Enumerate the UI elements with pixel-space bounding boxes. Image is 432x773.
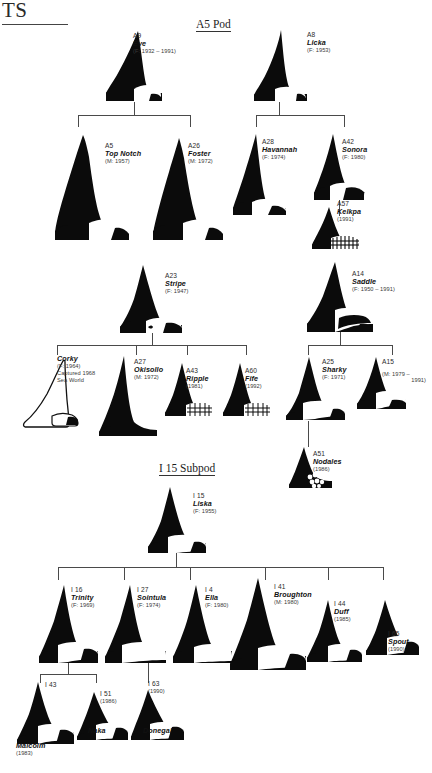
whale-name: Spout: [388, 638, 409, 646]
whale-years: (1986): [100, 698, 117, 705]
label-a28-havannah: A28 Havannah (F: 1974): [262, 138, 297, 161]
label-a26-foster: A26 Foster (M: 1972): [188, 142, 213, 165]
label-i4-ella: I 4 Ella (F: 1980): [205, 586, 229, 609]
connector-a14-bar: [308, 345, 393, 346]
whale-years: (M: 1957): [105, 158, 141, 165]
whale-name: Liska: [193, 500, 217, 508]
whale-id: A15: [382, 358, 426, 366]
whale-years: (F: 1964): [57, 363, 95, 370]
label-i15-liska: I 15 Liska (F: 1955): [193, 492, 217, 515]
whale-years: (1986): [313, 466, 342, 473]
label-a9-eve: A9 Eve (F: 1932 – 1991): [133, 32, 176, 55]
label-i51-naka: Naka: [88, 727, 106, 735]
connector-a23-stem: [152, 333, 153, 345]
label-a8-licka: A8 Licka (F: 1953): [307, 31, 331, 54]
whale-years: (F: 1947): [165, 288, 189, 295]
whale-name: Donegal: [143, 727, 172, 735]
connector-a25-a51: [308, 421, 309, 447]
whale-years: (F: 1980): [205, 602, 229, 609]
connector-i16-drop: [58, 567, 59, 580]
connector-a8-stem: [279, 102, 280, 115]
whale-name: Sonora: [342, 146, 367, 154]
whale-years: (F: 1969): [71, 602, 95, 609]
whale-name: Havannah: [262, 146, 297, 154]
whale-name: Eve: [133, 40, 176, 48]
whale-name: Foster: [188, 150, 213, 158]
whale-name: Broughton: [274, 591, 312, 599]
label-a42-sonora: A42 Sonora (F: 1980): [342, 138, 367, 161]
page-header-fragment: TS: [2, 0, 68, 25]
whale-name: Top Notch: [105, 150, 141, 158]
whale-years-cont: 1991): [382, 377, 426, 384]
label-a43-ripple: A43 Ripple (1981): [186, 367, 209, 390]
connector-a15-drop: [392, 345, 393, 355]
connector-a43-drop: [187, 345, 188, 355]
connector-a25-drop: [308, 345, 309, 355]
connector-i16-stem: [68, 663, 69, 674]
connector-a42-drop: [344, 115, 345, 127]
whale-years: (F: 1953): [307, 47, 331, 54]
whale-years: (1990): [388, 646, 409, 653]
whale-years: (1985): [334, 616, 351, 623]
label-corky: Corky (F: 1964) Captured 1968 Sea World: [57, 355, 95, 383]
connector-i65-drop: [383, 567, 384, 580]
whale-name: Ripple: [186, 375, 209, 383]
whale-id: I 43: [45, 681, 57, 689]
whale-years: (M: 1972): [134, 374, 163, 381]
label-a57-kelkpa: A57 Kelkpa (1991): [337, 200, 361, 223]
header-underline: [2, 24, 68, 25]
label-i65-spout: I 65 Spout (1990): [388, 630, 409, 653]
whale-name: Kelkpa: [337, 208, 361, 216]
label-i44-duff: I 44 Duff (1985): [334, 600, 351, 623]
label-a25-sharky: A25 Sharky (F: 1971): [322, 358, 347, 381]
genealogy-chart: TS A5 Pod A9 Eve (F: 1932 – 1991) A8 Lic…: [0, 0, 432, 773]
label-i63-donegal: Donegal: [143, 727, 172, 735]
whale-name: Sharky: [322, 366, 347, 374]
connector-i27-drop: [124, 567, 125, 580]
label-i27-sointula: I 27 Sointula (F: 1974): [137, 586, 166, 609]
whale-capture-note: Captured 1968: [57, 370, 95, 377]
whale-name: Duff: [334, 608, 351, 616]
whale-years: (1992): [245, 383, 262, 390]
label-a51-nodales: A51 Nodales (1986): [313, 450, 342, 473]
whale-years: (F: 1950 – 1991): [352, 286, 395, 293]
label-i63-id: I 63 (1990): [148, 680, 165, 694]
whale-name: Corky: [57, 355, 95, 363]
label-i43-malcolm: Malcolm (1983): [16, 742, 45, 757]
whale-years: (F: 1974): [262, 154, 297, 161]
whale-id: I 51: [100, 690, 117, 698]
label-a14-saddle: A14 Saddle (F: 1950 – 1991): [352, 270, 395, 293]
whale-facility-note: Sea World: [57, 377, 95, 384]
connector-a14-stem: [340, 332, 341, 345]
whale-years: (F: 1980): [342, 154, 367, 161]
whale-years: (M: 1979 –: [382, 371, 426, 378]
connector-a9-stem: [134, 102, 135, 115]
label-i51-id: I 51 (1986): [100, 690, 117, 704]
whale-years: (1991): [337, 216, 361, 223]
whale-years: (F: 1971): [322, 374, 347, 381]
connector-i15-bar: [58, 567, 383, 568]
connector-a27-drop: [136, 345, 137, 355]
whale-years: (1981): [186, 383, 209, 390]
label-a15: A15 (M: 1979 – 1991): [382, 358, 426, 384]
whale-name: Nodales: [313, 458, 342, 466]
whale-name: Saddle: [352, 278, 395, 286]
section-title-a5-pod: A5 Pod: [196, 18, 231, 32]
connector-a23-bar: [57, 345, 246, 346]
whale-name: Licka: [307, 39, 331, 47]
whale-years: (F: 1974): [137, 602, 166, 609]
whale-years: (M: 1972): [188, 158, 213, 165]
label-a5-top-notch: A5 Top Notch (M: 1957): [105, 142, 141, 165]
connector-i16-bar: [40, 674, 97, 675]
whale-name: Fife: [245, 375, 262, 383]
fin-a8-licka: [253, 30, 311, 101]
label-a60-fife: A60 Fife (1992): [245, 367, 262, 390]
connector-a5-drop: [78, 115, 79, 127]
label-a23-stripe: A23 Stripe (F: 1947): [165, 272, 189, 295]
whale-years: (F: 1932 – 1991): [133, 48, 176, 55]
whale-name: Sointula: [137, 594, 166, 602]
whale-years: (1983): [16, 750, 45, 757]
connector-i4-drop: [190, 567, 191, 580]
label-i16-trinity: I 16 Trinity (F: 1969): [71, 586, 95, 609]
whale-name: Malcolm: [16, 742, 45, 750]
